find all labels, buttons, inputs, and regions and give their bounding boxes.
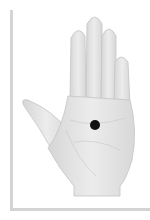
ring-finger [101,29,116,102]
palm [48,96,135,196]
middle-finger [86,17,102,100]
little-finger [114,57,130,106]
acupoint-marker [90,120,100,130]
palm-illustration [0,0,150,220]
index-finger [70,30,86,100]
